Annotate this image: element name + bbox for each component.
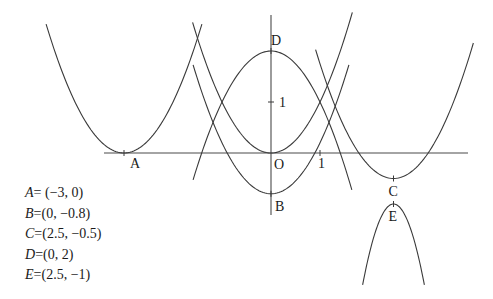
parabola-A-curve [46,24,202,153]
point-c-label: C [389,184,398,199]
point-a-label: A [130,156,141,171]
origin-label: O [274,157,284,172]
parabola-D-curve [193,51,352,190]
y-tick-label: 1 [279,95,286,110]
x-tick-label: 1 [318,156,325,171]
parabola-C-curve [316,43,474,178]
legend-row-d: D=(0, 2) [25,245,101,266]
legend-row-a: A= (−3, 0) [25,183,101,204]
legend-row-e: E=(2.5, −1) [25,265,101,286]
curves [46,12,473,285]
point-d-label: D [271,33,281,48]
vertex-points: ABCDE [124,33,398,224]
legend-row-c: C=(2.5, −0.5) [25,224,101,245]
coordinates-legend: A= (−3, 0) B=(0, −0.8) C=(2.5, −0.5) D=(… [25,183,101,286]
graph-canvas: 11O ABCDE A= (−3, 0) B=(0, −0.8) C=(2.5,… [0,0,493,299]
point-b-label: B [275,199,284,214]
axes: 11O [104,15,468,215]
point-e-label: E [389,209,398,224]
legend-row-b: B=(0, −0.8) [25,204,101,225]
